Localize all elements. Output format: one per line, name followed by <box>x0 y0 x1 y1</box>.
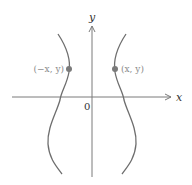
point-right-icon <box>112 66 118 72</box>
y-axis-label: y <box>88 11 96 24</box>
x-axis-label: x <box>176 91 183 104</box>
point-left-label: (−x, y) <box>34 64 64 74</box>
right-curve-branch <box>115 34 137 174</box>
point-left-icon <box>66 66 72 72</box>
origin-label: 0 <box>84 101 90 112</box>
symmetry-diagram: (−x, y) (x, y) y x 0 <box>0 0 192 185</box>
left-curve-branch <box>48 34 70 174</box>
point-right-label: (x, y) <box>121 64 144 74</box>
